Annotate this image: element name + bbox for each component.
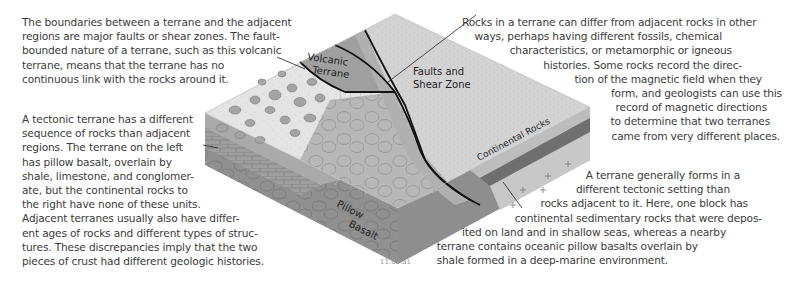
- text-line: regions are major faults or shear zones.…: [22, 29, 292, 43]
- text-line: shale formed in a deep-marine environmen…: [378, 253, 778, 267]
- text-line: regions. The terrane on the left: [22, 140, 264, 154]
- text-line: sequence of rocks than adjacent: [22, 126, 264, 140]
- text-line: The boundaries between a terrane and the…: [22, 15, 292, 29]
- paragraph-differ: Rocks in a terrane can differ from adjac…: [462, 15, 782, 143]
- paragraph-sequence: A tectonic terrane has a different seque…: [22, 112, 264, 268]
- text-line: tion of the magnetic field when they: [462, 72, 782, 86]
- text-line: ent ages of rocks and different types of…: [22, 226, 264, 240]
- text-line: came from very different places.: [462, 129, 782, 143]
- text-line: shale, limestone, and conglomer-: [22, 169, 264, 183]
- text-line: has pillow basalt, overlain by: [22, 155, 264, 169]
- text-line: record of magnetic directions: [462, 100, 782, 114]
- text-line: different tectonic setting than: [378, 182, 778, 196]
- text-line: histories. Some rocks record the direc-: [462, 58, 782, 72]
- paragraph-boundaries: The boundaries between a terrane and the…: [22, 15, 292, 86]
- text-line: ited on land and in shallow seas, wherea…: [378, 225, 778, 239]
- text-line: tures. These discrepancies imply that th…: [22, 240, 264, 254]
- text-line: continuous link with the rocks around it…: [22, 72, 292, 86]
- text-line: terrane, means that the terrane has no: [22, 58, 292, 72]
- paragraph-setting: A terrane generally forms in a different…: [378, 168, 778, 267]
- text-line: the right have none of these units.: [22, 197, 264, 211]
- text-line: ways, perhaps having different fossils, …: [462, 29, 782, 43]
- text-line: form, and geologists can use this: [462, 86, 782, 100]
- text-line: bounded nature of a terrane, such as thi…: [22, 43, 292, 57]
- text-line: A terrane generally forms in a: [378, 168, 778, 182]
- label-faults-1: Faults and: [413, 66, 464, 77]
- text-line: characteristics, or metamorphic or igneo…: [462, 43, 782, 57]
- text-line: pieces of crust had different geologic h…: [22, 254, 264, 268]
- text-line: ate, but the continental rocks to: [22, 183, 264, 197]
- text-line: to determine that two terranes: [462, 114, 782, 128]
- text-line: rocks adjacent to it. Here, one block ha…: [378, 196, 778, 210]
- text-line: Adjacent terranes usually also have diff…: [22, 211, 264, 225]
- text-line: continental sedimentary rocks that were …: [378, 211, 778, 225]
- text-line: A tectonic terrane has a different: [22, 112, 264, 126]
- text-line: Rocks in a terrane can differ from adjac…: [462, 15, 782, 29]
- text-line: terrane contains oceanic pillow basalts …: [378, 239, 778, 253]
